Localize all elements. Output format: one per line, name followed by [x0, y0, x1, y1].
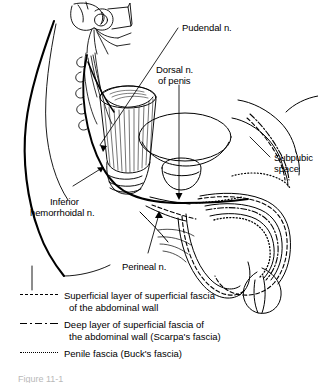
legend-superficial-line1: Superficial layer of superficial fascia: [64, 290, 215, 301]
leader-pudendal: [100, 28, 178, 145]
legend-item-deep-layer-scarpas: Deep layer of superficial fascia of the …: [20, 319, 310, 342]
arrowhead-perineal: [155, 211, 163, 218]
label-inferior-hemorrhoidal-line1: Inferior: [50, 196, 79, 207]
label-pudendal-nerve: Pudendal n.: [182, 22, 232, 33]
scrotum-dartos-dashed: [182, 216, 244, 295]
label-dorsal-nerve-line1: Dorsal n.: [156, 64, 193, 75]
perineum-skin-line: [64, 265, 110, 276]
anatomical-figure: Pudendal n. Dorsal n. of penis Subpubic …: [0, 0, 318, 383]
dotted-line-icon: [20, 352, 58, 353]
leader-perineal: [148, 214, 159, 253]
legend-penile-line1: Penile fascia (Buck's fascia): [64, 348, 182, 359]
legend-deep-line1: Deep layer of superficial fascia of: [64, 319, 204, 330]
anal-canal: [107, 162, 150, 194]
label-perineal-nerve: Perineal n.: [122, 261, 166, 272]
leader-arrowheads: [97, 145, 183, 218]
label-dorsal-nerve-line2: of penis: [158, 75, 190, 86]
scrotum: [178, 214, 250, 298]
legend-superficial-line2: of the abdominal wall: [64, 302, 310, 314]
legend-item-penile-fascia-bucks: Penile fascia (Buck's fascia): [20, 348, 310, 370]
label-subpubic-space-line2: space: [274, 163, 299, 174]
dashed-line-icon: [20, 294, 58, 295]
leader-lines: [73, 28, 270, 253]
body-contour-inner: [46, 24, 68, 200]
rectum-lumen-shading: [110, 90, 148, 100]
label-subpubic-space-line1: Subpubic: [274, 152, 313, 163]
leader-inferior-hemorrhoidal: [73, 168, 102, 186]
figure-caption: Figure 11-1: [18, 374, 308, 383]
legend-item-superficial-layer: Superficial layer of superficial fascia …: [20, 290, 310, 313]
sacrum-vertebrae: [71, 2, 132, 30]
body-contour-outline: [25, 21, 64, 276]
label-inferior-hemorrhoidal-line2: hemorrhoidal n.: [30, 207, 95, 218]
rectum-muscle-striations: [104, 99, 153, 172]
arrowhead-dorsal-nerve: [176, 193, 183, 200]
subpubic-dotted-plane: [232, 173, 290, 188]
sacral-nerve-roots: [87, 28, 131, 54]
fascia-legend: Superficial layer of superficial fascia …: [20, 290, 310, 376]
dash-dot-line-icon: [20, 323, 58, 324]
legend-deep-line2: the abdominal wall (Scarpa's fascia): [64, 331, 310, 343]
